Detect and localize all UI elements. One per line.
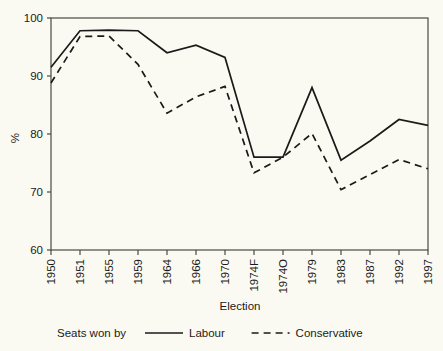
y-tick-label: 60 xyxy=(30,244,43,256)
y-tick-label: 100 xyxy=(24,12,43,24)
x-tick-label: 1992 xyxy=(393,259,405,285)
x-tick-label: 1970 xyxy=(219,259,231,285)
y-tick-label: 70 xyxy=(30,186,43,198)
legend-label-conservative: Conservative xyxy=(296,327,363,339)
x-tick-label: 1979 xyxy=(306,259,318,285)
x-axis-ticks xyxy=(51,250,428,255)
x-tick-label: 1951 xyxy=(74,259,86,285)
x-axis-tick-labels: 19501951195519591964196619701974F1974O19… xyxy=(45,258,434,293)
x-tick-label: 1987 xyxy=(364,259,376,285)
series-line-conservative xyxy=(51,36,428,190)
x-tick-label: 1983 xyxy=(335,259,347,285)
line-chart-svg: 60708090100 1950195119551959196419661970… xyxy=(0,0,443,351)
x-axis-title: Election xyxy=(220,300,261,312)
chart-legend: Seats won byLabourConservative xyxy=(57,327,363,339)
y-axis-tick-labels: 60708090100 xyxy=(24,12,43,256)
x-tick-label: 1966 xyxy=(190,259,202,285)
x-tick-label: 1997 xyxy=(422,259,434,285)
x-tick-label: 1950 xyxy=(45,259,57,285)
legend-prefix-label: Seats won by xyxy=(57,327,126,339)
plot-frame xyxy=(51,18,428,250)
y-tick-label: 80 xyxy=(30,128,43,140)
y-axis-title: % xyxy=(9,133,21,143)
data-series-group xyxy=(51,30,428,190)
x-tick-label: 1955 xyxy=(103,259,115,285)
chart-container: 60708090100 1950195119551959196419661970… xyxy=(0,0,443,351)
series-line-labour xyxy=(51,30,428,160)
legend-label-labour: Labour xyxy=(189,327,225,339)
x-tick-label: 1964 xyxy=(161,258,173,284)
x-tick-label: 1959 xyxy=(132,259,144,285)
x-tick-label: 1974F xyxy=(248,259,260,292)
y-tick-label: 90 xyxy=(30,70,43,82)
x-tick-label: 1974O xyxy=(277,259,289,294)
